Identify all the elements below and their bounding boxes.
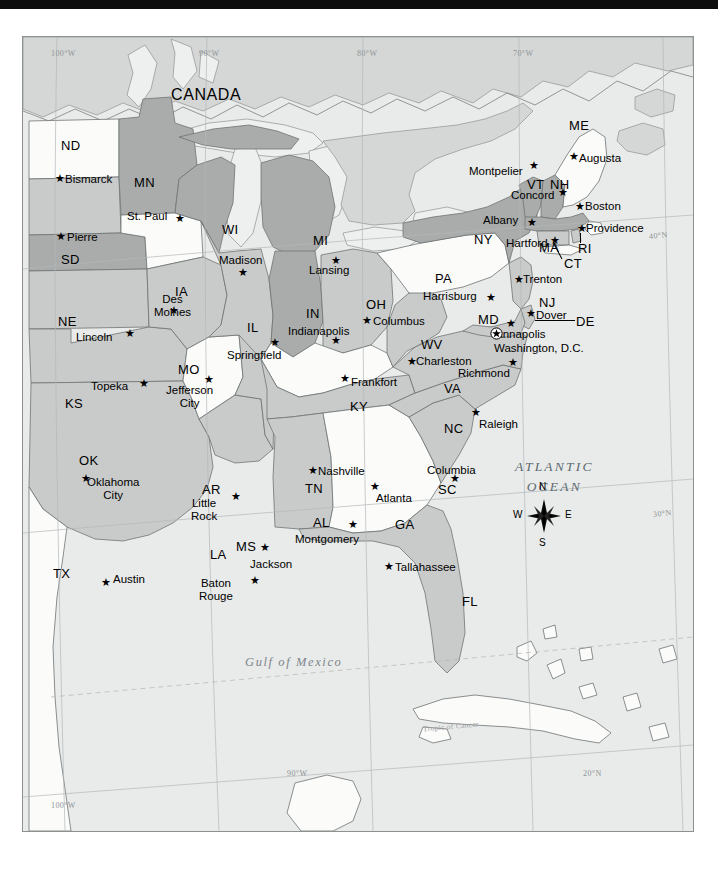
map-base-svg: .ln{fill:none;stroke:#7b807f;stroke-widt…	[23, 37, 693, 831]
top-black-bar	[0, 0, 718, 9]
map-page: .ln{fill:none;stroke:#7b807f;stroke-widt…	[0, 0, 718, 870]
map-frame[interactable]: .ln{fill:none;stroke:#7b807f;stroke-widt…	[22, 36, 694, 832]
